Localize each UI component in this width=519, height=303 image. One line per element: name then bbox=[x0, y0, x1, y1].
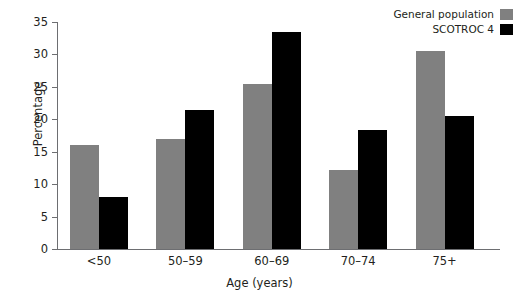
plot-area: 05101520253035 bbox=[57, 22, 500, 249]
bar bbox=[156, 139, 185, 249]
bar bbox=[329, 170, 358, 249]
y-axis-tick-label: 30 bbox=[33, 47, 48, 61]
legend-swatch-general-population bbox=[500, 9, 513, 20]
bars-layer bbox=[57, 22, 500, 249]
y-axis-tick-label: 35 bbox=[33, 15, 48, 29]
bar bbox=[99, 197, 128, 249]
y-axis-tick-label: 10 bbox=[33, 177, 48, 191]
y-axis-tick-label: 20 bbox=[33, 112, 48, 126]
x-axis-category-label: 75+ bbox=[432, 254, 456, 268]
bar bbox=[185, 110, 214, 249]
bar bbox=[70, 145, 99, 249]
y-axis-tick-label: 0 bbox=[41, 242, 48, 256]
bar bbox=[416, 51, 445, 249]
bar-chart: General population SCOTROC 4 Percentage … bbox=[0, 0, 519, 303]
y-axis-tick bbox=[52, 249, 57, 250]
y-axis-tick-label: 5 bbox=[41, 210, 48, 224]
legend-label-general-population: General population bbox=[393, 8, 494, 20]
y-axis-tick-label: 15 bbox=[33, 145, 48, 159]
x-axis-category-label: 50–59 bbox=[168, 254, 203, 268]
x-axis-category-label: 70–74 bbox=[341, 254, 376, 268]
bar bbox=[272, 32, 301, 249]
legend-swatch-scotroc-4 bbox=[500, 24, 513, 35]
bar bbox=[358, 130, 387, 249]
x-axis-line bbox=[57, 249, 500, 250]
bar bbox=[445, 116, 474, 249]
x-axis-category-label: 60–69 bbox=[254, 254, 289, 268]
x-axis-category-label: <50 bbox=[87, 254, 111, 268]
legend-item-general-population: General population bbox=[393, 8, 513, 20]
bar bbox=[243, 84, 272, 249]
x-axis-category-labels: <5050–5960–6970–7475+ bbox=[57, 254, 500, 272]
x-axis-title: Age (years) bbox=[0, 276, 519, 290]
y-axis-tick-label: 25 bbox=[33, 80, 48, 94]
